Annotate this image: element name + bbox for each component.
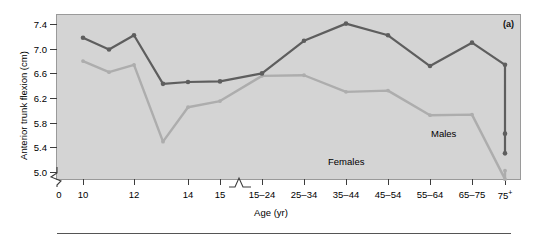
data-point [260, 71, 265, 76]
data-point [132, 63, 136, 67]
x-tick-label: 55–64 [417, 189, 443, 200]
x-tick-label: 14 [183, 189, 194, 200]
data-point [161, 140, 165, 144]
x-tick-label: 10 [78, 189, 89, 200]
y-tick-label: 7.0 [34, 43, 47, 54]
y-tick-mark [50, 49, 57, 50]
y-tick-mark [50, 147, 57, 148]
series-label-females: Females [328, 156, 364, 167]
series-females [81, 59, 507, 181]
x-tick-label: 75+ [498, 189, 513, 201]
data-point [470, 113, 474, 117]
y-axis-break-icon [50, 167, 64, 187]
data-point [344, 90, 348, 94]
data-point [386, 33, 391, 38]
bottom-rule [57, 233, 511, 234]
x-tick-label: 15 [215, 189, 226, 200]
data-point [386, 89, 390, 93]
series-lines [57, 15, 522, 181]
y-tick-mark [50, 24, 57, 25]
data-point [503, 131, 508, 136]
x-tick-label: 65–75 [459, 189, 485, 200]
series-path [83, 61, 505, 179]
data-point [428, 64, 433, 69]
data-point [503, 169, 507, 173]
y-tick-label: 6.2 [34, 93, 47, 104]
series-label-males: Males [431, 128, 456, 139]
data-point [218, 99, 222, 103]
data-point [107, 47, 112, 52]
data-point [81, 35, 86, 40]
x-tick-label: 12 [129, 189, 140, 200]
y-tick-label: 7.4 [34, 19, 47, 30]
data-point [428, 113, 432, 117]
y-tick-label: 6.6 [34, 68, 47, 79]
x-tick-label: 35–44 [333, 189, 359, 200]
y-tick-label: 5.8 [34, 117, 47, 128]
data-point [503, 63, 508, 68]
data-point [161, 82, 166, 87]
x-tick-label: 0 [56, 189, 61, 200]
figure-container: Anterior trunk flexion (cm) (a) 5.05.45.… [0, 0, 542, 243]
x-axis-break-icon [229, 175, 251, 189]
y-axis-title: Anterior trunk flexion (cm) [18, 21, 29, 191]
x-tick-label: 45–54 [375, 189, 401, 200]
data-point [132, 33, 137, 38]
y-tick-mark [50, 98, 57, 99]
y-tick-label: 5.4 [34, 142, 47, 153]
data-point [503, 151, 508, 156]
plot-area: (a) 5.05.45.86.26.67.07.4 01012141515–24… [56, 14, 521, 180]
data-point [186, 80, 191, 85]
y-tick-mark [50, 123, 57, 124]
data-point [503, 177, 507, 181]
data-point [81, 59, 85, 63]
data-point [218, 79, 223, 84]
data-point [302, 73, 306, 77]
data-point [302, 39, 307, 44]
data-point [107, 70, 111, 74]
data-point [186, 105, 190, 109]
data-point [344, 21, 349, 26]
x-tick-label: 15–24 [249, 189, 275, 200]
data-point [470, 40, 475, 45]
x-tick-label: 25–34 [291, 189, 317, 200]
x-axis-title: Age (yr) [0, 207, 542, 218]
y-tick-mark [50, 73, 57, 74]
y-tick-label: 5.0 [34, 166, 47, 177]
